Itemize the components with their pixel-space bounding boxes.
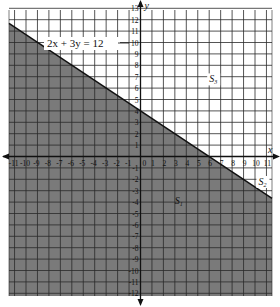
y-tick-label: 2 [135, 130, 139, 139]
y-tick-label: 3 [135, 118, 139, 127]
x-tick-label: -7 [56, 159, 62, 168]
x-tick-label: 9 [243, 159, 247, 168]
inequality-graph: -11-10-9-8-7-6-5-4-3-2-10123456789101113… [0, 0, 280, 307]
x-tick-label: -6 [68, 159, 74, 168]
y-tick-label: 13 [131, 4, 139, 13]
y-axis-down-arrow-icon [138, 299, 144, 306]
x-tick-label: -1 [125, 159, 131, 168]
x-tick-label: 5 [197, 159, 201, 168]
x-tick-label: 8 [231, 159, 235, 168]
y-tick-label: -11 [129, 278, 139, 287]
y-tick-label: 8 [135, 61, 139, 70]
x-tick-label: -10 [20, 159, 30, 168]
x-tick-label: 10 [252, 159, 260, 168]
x-tick-label: 1 [151, 159, 155, 168]
y-tick-label: 6 [135, 84, 139, 93]
x-axis-label: x [267, 144, 273, 155]
x-tick-label: -9 [33, 159, 39, 168]
y-tick-label: -1 [132, 164, 138, 173]
x-tick-label: 4 [185, 159, 189, 168]
y-tick-label: 10 [131, 39, 139, 48]
coordinate-plane: -11-10-9-8-7-6-5-4-3-2-10123456789101113… [0, 0, 280, 307]
equation-label: 2x + 3y = 12 [47, 37, 103, 49]
y-tick-label: -3 [132, 187, 138, 196]
x-tick-label: 3 [174, 159, 178, 168]
y-tick-label: 11 [131, 27, 138, 36]
x-tick-label: -8 [45, 159, 51, 168]
y-tick-label: -2 [132, 175, 138, 184]
y-tick-label: -9 [132, 255, 138, 264]
x-tick-label: -11 [9, 159, 19, 168]
x-tick-label: 2 [163, 159, 167, 168]
y-tick-label: -4 [132, 198, 138, 207]
y-tick-label: -8 [132, 244, 138, 253]
y-tick-label: -10 [129, 267, 139, 276]
y-tick-label: -12 [129, 289, 139, 298]
x-tick-label: -3 [102, 159, 108, 168]
x-axis-right-arrow-icon [273, 154, 280, 160]
y-tick-label: 9 [135, 50, 139, 59]
x-tick-label: -4 [91, 159, 97, 168]
y-tick-label: 12 [131, 16, 139, 25]
y-tick-label: -5 [132, 210, 138, 219]
x-tick-label: 7 [220, 159, 224, 168]
x-tick-label: 11 [264, 159, 271, 168]
x-tick-label: 0 [143, 159, 147, 168]
y-tick-label: -7 [132, 232, 138, 241]
y-axis-label: y [144, 0, 150, 11]
x-tick-label: -2 [113, 159, 119, 168]
y-tick-label: 1 [135, 141, 139, 150]
x-tick-label: -5 [79, 159, 85, 168]
y-tick-label: 4 [135, 107, 139, 116]
y-tick-label: -6 [132, 221, 138, 230]
y-tick-label: 5 [135, 96, 139, 105]
y-tick-label: 7 [135, 73, 139, 82]
x-tick-label: 6 [208, 159, 212, 168]
